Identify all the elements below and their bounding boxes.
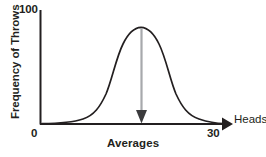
x-axis-title: Heads [234, 114, 266, 126]
chart-figure: Frequency of Throws 100 0 30 Averages He… [0, 0, 266, 157]
chart-plot-area [0, 0, 266, 157]
mean-arrow-head-icon [136, 110, 147, 124]
x-axis-caption: Averages [107, 138, 159, 150]
y-axis-tick-label-0: 0 [31, 128, 37, 140]
y-axis-title: Frequency of Throws [10, 0, 22, 124]
x-axis-tick-label-30: 30 [207, 128, 219, 140]
distribution-curve [42, 27, 224, 123]
y-axis-tick-label-100: 100 [19, 4, 38, 16]
